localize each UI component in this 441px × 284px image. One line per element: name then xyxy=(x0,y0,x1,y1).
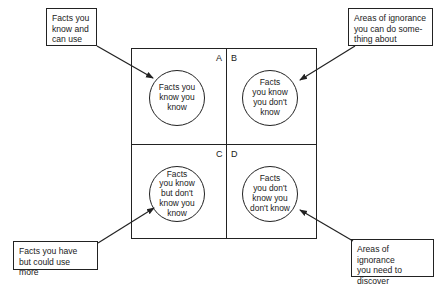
connector-arrows xyxy=(0,0,441,284)
arrow-to-b xyxy=(300,46,355,80)
arrow-to-d xyxy=(300,210,353,241)
arrow-to-a xyxy=(97,46,153,78)
arrow-to-c xyxy=(98,208,154,243)
